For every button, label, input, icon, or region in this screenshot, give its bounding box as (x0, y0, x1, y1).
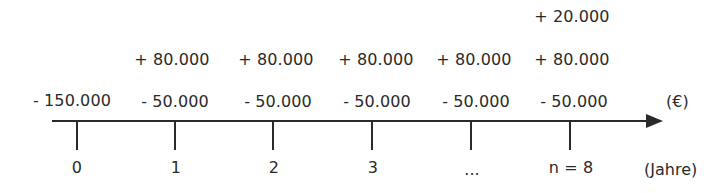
inflow-value: + 80.000 (436, 51, 511, 69)
period-label: 3 (368, 159, 378, 177)
outflow-value: - 150.000 (33, 92, 111, 110)
outflow-value: - 50.000 (343, 93, 411, 111)
inflow-value: + 80.000 (338, 51, 413, 69)
inflow-value: + 80.000 (238, 51, 313, 69)
axis-arrow-icon (646, 114, 663, 128)
time-axis-line (52, 120, 650, 122)
period-label: ... (464, 161, 480, 179)
tick-period-3 (371, 121, 373, 150)
residual-value: + 20.000 (534, 8, 609, 26)
period-label: 0 (72, 159, 82, 177)
tick-period-0 (76, 121, 78, 150)
period-label: n = 8 (549, 159, 593, 177)
tick-period-n (569, 121, 571, 150)
outflow-value: - 50.000 (540, 93, 608, 111)
outflow-value: - 50.000 (141, 93, 209, 111)
tick-period-1 (174, 121, 176, 150)
inflow-value: + 80.000 (134, 51, 209, 69)
currency-unit-label: (€) (666, 93, 689, 111)
tick-period-ellipsis (470, 121, 472, 150)
inflow-value: + 80.000 (534, 51, 609, 69)
time-unit-label: (Jahre) (644, 161, 697, 179)
outflow-value: - 50.000 (442, 93, 510, 111)
tick-period-2 (272, 121, 274, 150)
period-label: 2 (269, 159, 279, 177)
outflow-value: - 50.000 (244, 93, 312, 111)
period-label: 1 (171, 159, 181, 177)
